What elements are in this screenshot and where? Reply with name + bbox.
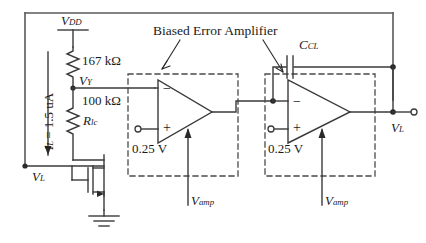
resistor-rlc-designator: Rlc [83,114,97,127]
terminal-vl-out [411,109,417,115]
capacitor-label-ccl: CCL [299,38,318,51]
nmos-load [72,155,104,210]
node-label-vl-out: VL [391,121,404,134]
supply-label-vdd: VDD [61,14,82,27]
annotation-biased-error-amplifier: Biased Error Amplifier [153,24,277,38]
amp2-plus-lead [268,126,288,132]
amp1-minus-sign: − [163,82,171,96]
amp1-plus-sign: + [163,121,171,135]
amp2-dashed-box [265,74,375,176]
amp1-plus-lead [135,126,158,132]
resistor-rlc-symbol [67,88,79,160]
resistor-167k-symbol [67,47,79,88]
amp2-vamp-label: Vamp [325,194,348,207]
node-label-vl-left: VL [32,170,45,183]
amp1-bias-label: 0.25 V [132,142,167,155]
amp2-minus-sign: − [293,95,301,109]
resistor-100k-label: 100 kΩ [82,94,121,107]
node-dot-vl-left [22,163,27,168]
amp2-bias-label: 0.25 V [268,142,303,155]
current-source-label: IL= 1.5 uA [42,93,55,150]
amp2-plus-sign: + [293,121,301,135]
resistor-167k-label: 167 kΩ [82,54,121,67]
node-label-vy: VY [79,74,92,87]
supply-rail-vdd [58,30,88,47]
figure-canvas: VDD IL= 1.5 uA 167 kΩ VY 100 kΩ Rlc VL B… [0,0,426,243]
ground-symbol [89,210,119,226]
amp1-dashed-box [128,74,238,176]
annotation-leaders [162,40,283,72]
wire-amp1-out-to-amp2-in [212,101,273,112]
amp1-vamp-label: Vamp [191,194,214,207]
